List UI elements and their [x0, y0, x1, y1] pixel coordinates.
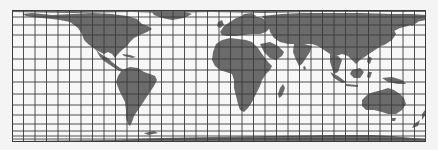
- world-map-svg: [12, 10, 426, 142]
- world-map: [12, 10, 426, 142]
